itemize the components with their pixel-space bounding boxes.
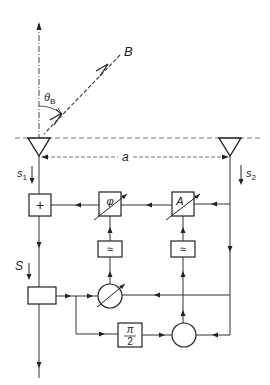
spacing-dimension: a [41, 150, 229, 164]
amplitude-block: A [166, 192, 200, 220]
signal2-label: s2 [246, 167, 257, 182]
s2-to-phase-detector [122, 293, 230, 298]
beam-label: B [124, 44, 133, 59]
svg-text:≈: ≈ [107, 243, 113, 255]
adder-block: + [29, 194, 51, 216]
incoming-beam: B [44, 44, 133, 134]
signal1-label: s1 [17, 167, 28, 182]
s2-to-amplitude-detector [196, 333, 230, 338]
antenna-array-diagram: B θB a s1 s2 + φ [0, 0, 270, 385]
phase-detector [97, 257, 125, 308]
spacing-label: a [122, 150, 129, 164]
antenna-element-1 [28, 138, 50, 156]
angle-theta: θB [39, 91, 62, 115]
angle-label: θB [44, 91, 55, 106]
quarter-phase-shift-block: π 2 [118, 323, 172, 347]
signal-path-1: s1 [17, 156, 39, 194]
svg-text:2: 2 [127, 336, 133, 347]
top-row-links [51, 202, 230, 208]
sum-output-path: S [15, 216, 42, 287]
phase-shifter-block: φ [94, 192, 127, 220]
lowpass-filter-right: ≈ [171, 216, 195, 257]
boresight-axis [37, 22, 42, 140]
svg-text:≈: ≈ [180, 243, 186, 255]
signal-path-2: s2 [228, 156, 257, 335]
splitter-block [28, 287, 56, 378]
lowpass-filter-left: ≈ [98, 216, 122, 257]
amplitude-detector [172, 257, 196, 347]
svg-text:+: + [36, 197, 44, 213]
svg-text:A: A [175, 195, 183, 207]
antenna-element-2 [219, 138, 241, 156]
sum-output-label: S [15, 259, 23, 273]
svg-text:π: π [127, 324, 134, 335]
